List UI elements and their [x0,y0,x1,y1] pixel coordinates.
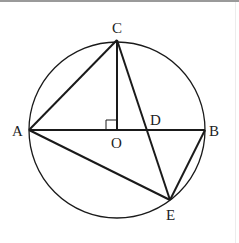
label-d: D [150,112,161,128]
label-a: A [12,123,23,139]
segment-ae [29,130,170,200]
geometry-diagram: C A B O D E [0,0,239,243]
right-angle-marker [106,120,117,130]
label-e: E [166,207,175,223]
segment-ce [117,40,170,200]
segment-be [170,130,205,200]
label-o: O [111,135,122,151]
label-b: B [209,123,219,139]
label-c: C [112,20,122,36]
